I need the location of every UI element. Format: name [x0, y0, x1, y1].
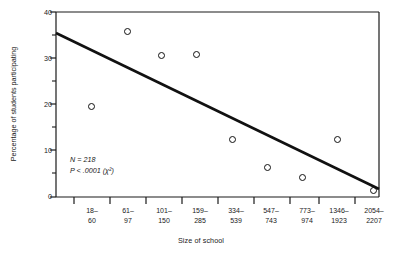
data-point [229, 136, 236, 143]
data-point [124, 28, 131, 35]
x-tick-line1: 18– [72, 206, 112, 216]
x-tick-line2: 1923 [319, 216, 359, 226]
data-point [158, 52, 165, 59]
x-ticks [74, 197, 355, 204]
x-tick-label-61-97: 61– 97 [108, 206, 148, 225]
x-tick-line1: 334– [216, 206, 256, 216]
annotation-sample-size-text: N = 218 [70, 155, 95, 164]
x-tick-line2: 60 [72, 216, 112, 226]
chart-figure: Percentage of students participating 40 … [0, 0, 402, 253]
x-tick-label-18-60: 18– 60 [72, 206, 112, 225]
data-point [88, 103, 95, 110]
x-tick-label-1346-1923: 1346– 1923 [319, 206, 359, 225]
x-tick-line1: 159– [180, 206, 220, 216]
x-tick-label-159-285: 159– 285 [180, 206, 220, 225]
data-point [193, 51, 200, 58]
x-tick-label-547-743: 547– 743 [251, 206, 291, 225]
annotation-sample-size: N = 218 [70, 155, 95, 166]
x-tick-line1: 101– [144, 206, 184, 216]
x-tick-line2: 97 [108, 216, 148, 226]
x-tick-line2: 539 [216, 216, 256, 226]
x-tick-label-101-150: 101– 150 [144, 206, 184, 225]
x-tick-line1: 1346– [319, 206, 359, 216]
x-tick-line2: 743 [251, 216, 291, 226]
x-tick-line2: 285 [180, 216, 220, 226]
x-tick-line1: 2054– [354, 206, 394, 216]
data-point [334, 136, 341, 143]
x-tick-label-334-539: 334– 539 [216, 206, 256, 225]
x-tick-label-2054-2207: 2054– 2207 [354, 206, 394, 225]
annotation-p-value-text: P < .0001 (χ²) [70, 166, 114, 175]
annotation-p-value: P < .0001 (χ²) [70, 166, 114, 177]
data-point [370, 187, 377, 194]
x-axis-title: Size of school [0, 236, 402, 245]
x-tick-line1: 61– [108, 206, 148, 216]
data-point [264, 164, 271, 171]
y-major-ticks [50, 12, 56, 197]
x-tick-line1: 547– [251, 206, 291, 216]
data-point [299, 174, 306, 181]
x-tick-line2: 2207 [354, 216, 394, 226]
x-tick-line2: 150 [144, 216, 184, 226]
